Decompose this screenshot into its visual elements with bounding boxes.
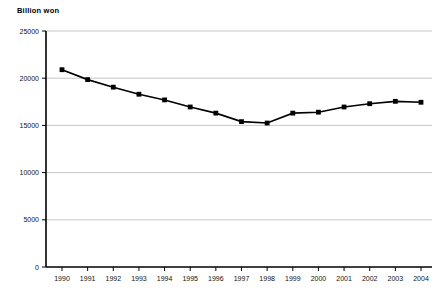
data-point-markers-group: [60, 67, 424, 125]
x-tick-label: 1990: [54, 275, 70, 282]
y-tick-label: 20000: [20, 75, 40, 82]
x-tick-label: 2003: [388, 275, 404, 282]
x-tick-label: 1995: [182, 275, 198, 282]
y-tick-labels-group: 0500010000150002000025000: [20, 28, 40, 271]
x-tick-label: 2001: [336, 275, 352, 282]
data-point-marker: [188, 105, 193, 110]
data-point-marker: [290, 111, 295, 116]
data-point-marker: [239, 119, 244, 124]
data-point-marker: [111, 85, 116, 90]
chart-container: Billion won 0500010000150002000025000 19…: [0, 0, 443, 301]
x-tick-label: 2004: [413, 275, 429, 282]
data-point-marker: [213, 111, 218, 116]
data-point-marker: [393, 99, 398, 104]
data-point-marker: [419, 100, 424, 105]
x-tick-label: 1993: [131, 275, 147, 282]
x-tick-label: 1991: [80, 275, 96, 282]
data-point-marker: [85, 77, 90, 82]
x-tick-labels-group: 1990199119921993199419951996199719981999…: [54, 275, 429, 282]
x-tick-label: 2002: [362, 275, 378, 282]
y-tick-label: 15000: [20, 122, 40, 129]
x-tick-label: 1994: [157, 275, 173, 282]
x-tick-label: 2000: [311, 275, 327, 282]
x-tick-label: 1999: [285, 275, 301, 282]
x-tick-label: 1992: [105, 275, 121, 282]
data-point-marker: [316, 110, 321, 115]
x-tick-label: 1997: [234, 275, 250, 282]
gridlines-group: [46, 31, 432, 220]
data-series-line: [62, 70, 421, 123]
data-point-marker: [265, 121, 270, 126]
data-point-marker: [60, 67, 65, 72]
data-point-marker: [367, 101, 372, 106]
data-point-marker: [137, 92, 142, 97]
data-point-marker: [162, 98, 167, 103]
y-tick-label: 5000: [23, 216, 39, 223]
x-tick-label: 1998: [259, 275, 275, 282]
line-chart: 0500010000150002000025000 19901991199219…: [0, 0, 443, 301]
y-tick-label: 25000: [20, 28, 40, 35]
y-tick-label: 10000: [20, 169, 40, 176]
x-tick-label: 1996: [208, 275, 224, 282]
data-point-marker: [342, 105, 347, 110]
y-tick-label: 0: [35, 264, 39, 271]
